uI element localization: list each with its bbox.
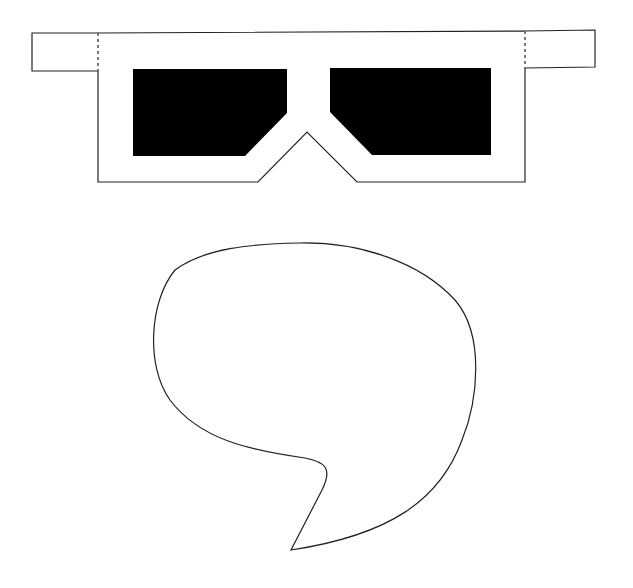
drawing-canvas bbox=[0, 0, 633, 588]
right-arm bbox=[525, 30, 595, 68]
3d-glasses bbox=[32, 30, 595, 182]
speech-bubble bbox=[154, 243, 476, 550]
left-arm bbox=[32, 33, 98, 71]
